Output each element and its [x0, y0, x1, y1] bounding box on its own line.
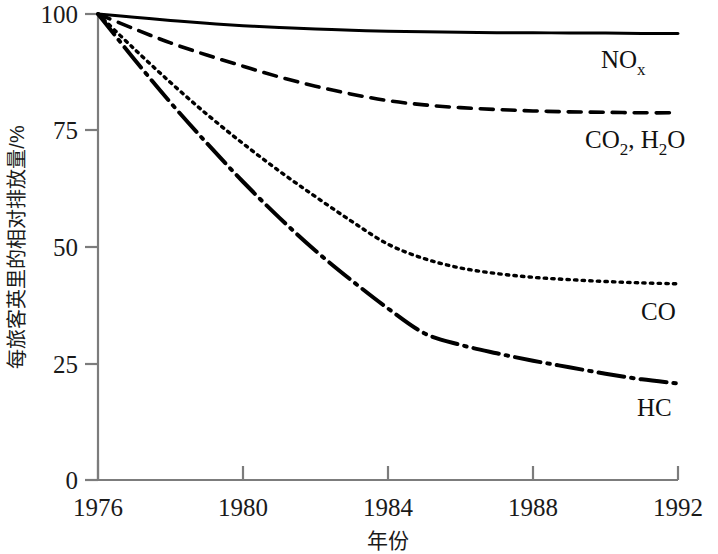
x-tick-label-1980: 1980 — [218, 494, 268, 521]
series-label-co2-sub-1: 2 — [620, 140, 629, 159]
y-tick-label-0: 0 — [66, 467, 79, 494]
series-label-co2: CO2, H2O — [585, 126, 685, 159]
y-tick-label-75: 75 — [53, 117, 78, 144]
series-label-co: CO — [641, 298, 676, 325]
y-axis-title: 每旅客英里的相对排放量/% — [6, 125, 28, 369]
x-tick-label-1976: 1976 — [73, 494, 123, 521]
series-line-hc — [98, 14, 678, 384]
y-tick-label-50: 50 — [53, 234, 78, 261]
series-line-nox — [98, 14, 678, 34]
x-axis-title: 年份 — [367, 529, 409, 552]
x-tick-label-1992: 1992 — [653, 494, 703, 521]
series-label-co2-sub-2: 2 — [659, 140, 668, 159]
x-tick-label-1984: 1984 — [363, 494, 414, 521]
chart-canvas: 100 75 50 25 0 1976 1980 1984 1988 1992 … — [0, 0, 718, 554]
x-tick-label-1988: 1988 — [508, 494, 558, 521]
series-label-co2-main: CO — [585, 126, 620, 153]
series-label-co2-end: O — [667, 126, 685, 153]
series-label-hc: HC — [637, 394, 672, 421]
series-line-co2 — [98, 14, 678, 113]
y-tick-label-25: 25 — [53, 351, 78, 378]
y-tick-label-100: 100 — [41, 1, 79, 28]
emissions-line-chart: 100 75 50 25 0 1976 1980 1984 1988 1992 … — [0, 0, 718, 554]
series-label-nox-main: NO — [601, 46, 637, 73]
series-label-nox: NOx — [601, 46, 646, 79]
series-label-co2-mid: , H — [628, 126, 659, 153]
series-label-nox-sub: x — [637, 60, 646, 79]
